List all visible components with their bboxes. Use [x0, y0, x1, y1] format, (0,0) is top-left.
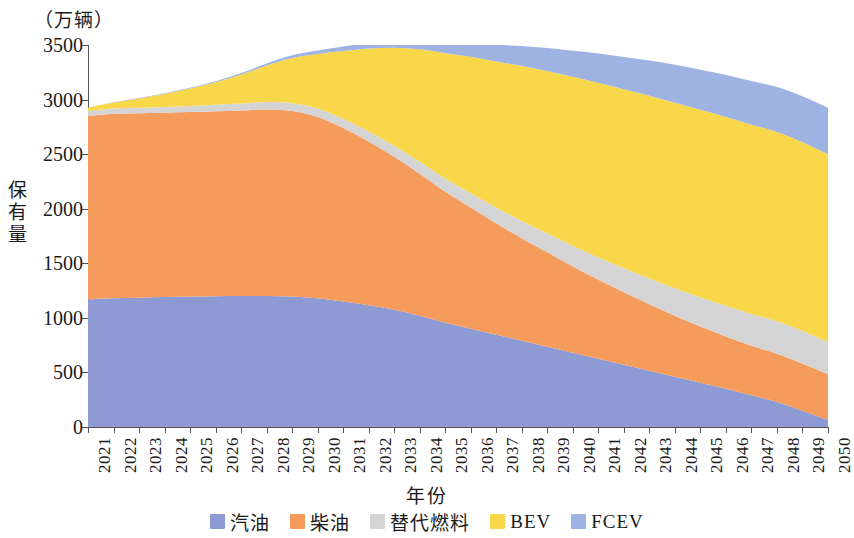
x-tick-label: 2024 [172, 437, 192, 473]
y-tick-label: 3500 [43, 34, 83, 57]
y-tick-mark [82, 100, 88, 101]
chart-legend: 汽油柴油替代燃料BEVFCEV [0, 508, 854, 535]
y-tick-mark [82, 263, 88, 264]
legend-item[interactable]: 汽油 [210, 508, 270, 535]
x-tick-label: 2050 [835, 437, 854, 473]
x-tick-mark [675, 427, 676, 433]
x-tick-label: 2041 [605, 437, 625, 473]
x-tick-mark [114, 427, 115, 433]
x-tick-mark [802, 427, 803, 433]
x-tick-mark [649, 427, 650, 433]
legend-swatch-icon [571, 514, 586, 529]
x-tick-label: 2034 [427, 437, 447, 473]
x-tick-label: 2046 [733, 437, 753, 473]
x-tick-mark [471, 427, 472, 433]
legend-label: BEV [510, 511, 551, 533]
x-tick-label: 2030 [325, 437, 345, 473]
x-tick-mark [139, 427, 140, 433]
x-tick-mark [496, 427, 497, 433]
x-tick-label: 2023 [146, 437, 166, 473]
y-tick-label: 2500 [43, 143, 83, 166]
y-tick-label: 2000 [43, 197, 83, 220]
x-tick-mark [318, 427, 319, 433]
y-tick-label: 500 [53, 361, 83, 384]
x-tick-label: 2039 [554, 437, 574, 473]
x-axis-line [88, 427, 829, 428]
x-tick-label: 2021 [95, 437, 115, 473]
x-tick-mark [241, 427, 242, 433]
x-axis-title-text: 年份 [406, 486, 448, 507]
x-tick-label: 2026 [223, 437, 243, 473]
legend-swatch-icon [370, 514, 385, 529]
x-tick-label: 2047 [758, 437, 778, 473]
x-tick-label: 2036 [478, 437, 498, 473]
x-tick-mark [267, 427, 268, 433]
x-tick-label: 2033 [401, 437, 421, 473]
y-tick-mark [82, 45, 88, 46]
x-tick-label: 2048 [784, 437, 804, 473]
legend-label: 汽油 [230, 508, 270, 535]
y-tick-mark [82, 209, 88, 210]
x-tick-mark [598, 427, 599, 433]
x-tick-label: 2043 [656, 437, 676, 473]
x-tick-mark [190, 427, 191, 433]
x-tick-label: 2029 [299, 437, 319, 473]
x-tick-mark [624, 427, 625, 433]
x-tick-mark [88, 427, 89, 433]
y-tick-label: 3000 [43, 88, 83, 111]
x-tick-label: 2045 [707, 437, 727, 473]
y-tick-mark [82, 318, 88, 319]
y-tick-label: 1000 [43, 306, 83, 329]
legend-swatch-icon [210, 514, 225, 529]
legend-item[interactable]: 替代燃料 [370, 508, 470, 535]
x-tick-label: 2032 [376, 437, 396, 473]
x-tick-mark [292, 427, 293, 433]
legend-item[interactable]: FCEV [571, 511, 644, 533]
x-tick-mark [522, 427, 523, 433]
x-tick-mark [420, 427, 421, 433]
legend-label: FCEV [591, 511, 644, 533]
x-tick-label: 2049 [809, 437, 829, 473]
x-tick-label: 2027 [248, 437, 268, 473]
x-tick-mark [777, 427, 778, 433]
y-tick-label: 1500 [43, 252, 83, 275]
y-axis-title: 保有量 [6, 180, 30, 246]
plot-area: 0500100015002000250030003500 20212022202… [88, 45, 828, 427]
y-axis-title-text: 保有量 [6, 180, 30, 246]
legend-item[interactable]: BEV [490, 511, 551, 533]
x-tick-mark [445, 427, 446, 433]
x-tick-mark [751, 427, 752, 433]
x-tick-mark [216, 427, 217, 433]
x-tick-mark [573, 427, 574, 433]
y-tick-mark [82, 372, 88, 373]
x-tick-label: 2025 [197, 437, 217, 473]
legend-label: 柴油 [310, 508, 350, 535]
legend-swatch-icon [490, 514, 505, 529]
x-tick-mark [726, 427, 727, 433]
x-tick-mark [700, 427, 701, 433]
x-tick-mark [343, 427, 344, 433]
x-axis-title: 年份 [0, 481, 854, 508]
x-tick-label: 2035 [452, 437, 472, 473]
x-tick-mark [394, 427, 395, 433]
x-tick-mark [547, 427, 548, 433]
area-chart: （万辆） 保有量 0500100015002000250030003500 20… [0, 0, 854, 538]
x-tick-label: 2031 [350, 437, 370, 473]
x-tick-label: 2042 [631, 437, 651, 473]
x-tick-label: 2038 [529, 437, 549, 473]
x-tick-label: 2040 [580, 437, 600, 473]
x-tick-label: 2022 [121, 437, 141, 473]
x-tick-mark [165, 427, 166, 433]
x-tick-mark [828, 427, 829, 433]
legend-label: 替代燃料 [390, 508, 470, 535]
x-tick-mark [369, 427, 370, 433]
x-tick-label: 2037 [503, 437, 523, 473]
x-tick-label: 2044 [682, 437, 702, 473]
x-tick-label: 2028 [274, 437, 294, 473]
stacked-areas [88, 45, 828, 427]
legend-item[interactable]: 柴油 [290, 508, 350, 535]
unit-caption: （万辆） [34, 5, 114, 32]
y-tick-mark [82, 154, 88, 155]
legend-swatch-icon [290, 514, 305, 529]
